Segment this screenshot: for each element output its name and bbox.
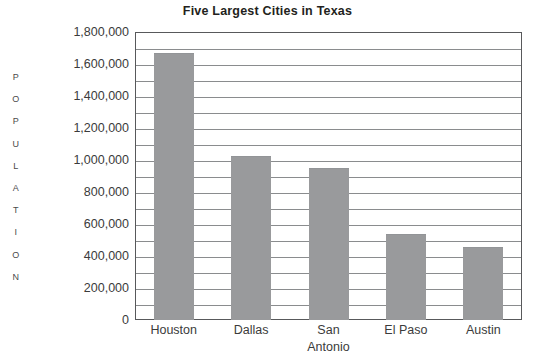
- y-axis-label-letter: P: [13, 66, 20, 88]
- y-axis-label-letter: O: [12, 88, 20, 110]
- grid-line: [136, 129, 521, 130]
- x-axis-tick-label: SanAntonio: [290, 322, 367, 356]
- y-axis-tick-label: 1,000,000: [29, 153, 129, 167]
- grid-line: [136, 177, 521, 178]
- plot-area: [135, 32, 522, 320]
- y-axis-label-letter: A: [13, 177, 20, 199]
- grid-line: [136, 113, 521, 114]
- x-axis-tick-label-line: Austin: [445, 322, 522, 339]
- grid-line: [136, 49, 521, 50]
- x-axis-tick-labels: HoustonDallasSanAntonioEl PasoAustin: [135, 322, 522, 364]
- x-axis-tick-label: Houston: [135, 322, 212, 339]
- x-axis-tick-label: El Paso: [367, 322, 444, 339]
- x-axis-tick-label-line: El Paso: [367, 322, 444, 339]
- y-axis-label: POPULATION: [8, 66, 24, 288]
- y-axis-label-letter: O: [12, 244, 20, 266]
- grid-line: [136, 305, 521, 306]
- grid-line: [136, 209, 521, 210]
- x-axis-tick-label: Dallas: [212, 322, 289, 339]
- grid-line: [136, 145, 521, 146]
- y-axis-label-letter: T: [13, 199, 19, 221]
- grid-line: [136, 273, 521, 274]
- y-axis-tick-label: 1,400,000: [29, 89, 129, 103]
- grid-line: [136, 161, 521, 162]
- x-axis-tick-label-line: Houston: [135, 322, 212, 339]
- y-axis-tick-labels: 0200,000400,000600,000800,0001,000,0001,…: [24, 32, 129, 320]
- y-axis-tick-label: 800,000: [29, 185, 129, 199]
- y-axis-label-letter: N: [13, 266, 20, 288]
- grid-line: [136, 81, 521, 82]
- grid-line: [136, 65, 521, 66]
- y-axis-label-letter: P: [13, 110, 20, 132]
- x-axis-tick-label-line: Antonio: [290, 339, 367, 356]
- chart-title: Five Largest Cities in Texas: [0, 4, 535, 18]
- y-axis-tick-label: 1,200,000: [29, 121, 129, 135]
- y-axis-tick-label: 0: [29, 313, 129, 327]
- y-axis-tick-label: 1,800,000: [29, 25, 129, 39]
- y-axis-tick-label: 400,000: [29, 249, 129, 263]
- x-axis-tick-label-line: Dallas: [212, 322, 289, 339]
- grid-line: [136, 225, 521, 226]
- grid-line: [136, 97, 521, 98]
- y-axis-tick-label: 200,000: [29, 281, 129, 295]
- x-axis-tick-label-line: San: [290, 322, 367, 339]
- grid-line: [136, 241, 521, 242]
- grid-line: [136, 289, 521, 290]
- grid-line: [136, 257, 521, 258]
- bar-chart: Five Largest Cities in Texas POPULATION …: [0, 0, 535, 364]
- y-axis-tick-label: 600,000: [29, 217, 129, 231]
- y-axis-label-letter: U: [13, 133, 20, 155]
- grid-line: [136, 193, 521, 194]
- y-axis-tick-label: 1,600,000: [29, 57, 129, 71]
- y-axis-label-letter: L: [13, 155, 19, 177]
- x-axis-tick-label: Austin: [445, 322, 522, 339]
- y-axis-label-letter: I: [14, 221, 17, 243]
